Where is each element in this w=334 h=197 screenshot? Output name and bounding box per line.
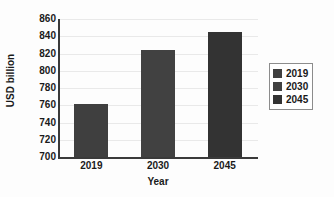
y-axis-tick-label: 820 <box>24 49 56 59</box>
y-axis-tick-label: 740 <box>24 118 56 128</box>
plot-area <box>58 19 258 157</box>
x-axis-title: Year <box>58 176 258 187</box>
y-axis-tick-label: 780 <box>24 83 56 93</box>
x-axis-title-text: Year <box>147 176 168 187</box>
legend-item-label: 2019 <box>286 69 308 79</box>
y-axis-title: USD billion <box>0 0 22 160</box>
y-axis-tick-label: 840 <box>24 31 56 41</box>
legend-item-label: 2045 <box>286 95 308 105</box>
bar <box>141 50 175 157</box>
legend-color-swatch <box>273 95 282 104</box>
y-axis-tick-label: 700 <box>24 152 56 162</box>
legend-color-swatch <box>273 82 282 91</box>
legend-item: 2045 <box>273 93 308 106</box>
x-axis-tick-label: 2030 <box>138 160 178 172</box>
y-axis-title-text: USD billion <box>6 53 17 106</box>
legend-color-swatch <box>273 69 282 78</box>
bar <box>208 32 242 157</box>
x-axis-line <box>58 157 258 159</box>
bars-layer <box>58 19 258 157</box>
y-axis-tick-label: 760 <box>24 100 56 110</box>
x-axis-tick-label: 2045 <box>205 160 245 172</box>
legend-item: 2030 <box>273 80 308 93</box>
y-axis-tick-label: 720 <box>24 135 56 145</box>
x-axis-tick-labels: 201920302045 <box>58 160 258 174</box>
y-axis-tick-labels: 700720740760780800820840860 <box>24 12 56 162</box>
legend-item-label: 2030 <box>286 82 308 92</box>
y-axis-tick-label: 800 <box>24 66 56 76</box>
bar <box>74 104 108 157</box>
x-axis-tick-label: 2019 <box>71 160 111 172</box>
bar-chart-figure: USD billion 700720740760780800820840860 … <box>0 0 334 197</box>
chart-legend: 201920302045 <box>269 63 313 110</box>
y-axis-tick-label: 860 <box>24 14 56 24</box>
legend-item: 2019 <box>273 67 308 80</box>
